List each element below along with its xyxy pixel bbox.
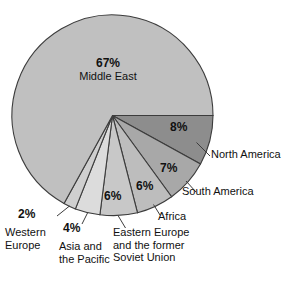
slice-percent-south-america-wrap: 7%	[160, 162, 177, 175]
slice-percent-north-america-wrap: 8%	[170, 121, 187, 134]
slice-name-eastern-europe-line1: Eastern Europe	[113, 226, 189, 238]
slice-name-western-europe-line2: Europe	[5, 239, 40, 251]
slice-percent-south-america: 7%	[160, 161, 177, 175]
slice-percent-asia-pacific-wrap: 4%	[63, 222, 80, 235]
slice-label-africa: Africa	[158, 210, 186, 223]
slice-label-north-america: North America	[211, 148, 281, 161]
slice-label-western-europe: Western Europe	[5, 226, 46, 251]
slice-percent-western-europe-wrap: 2%	[18, 208, 35, 221]
slice-percent-middle-east: 67%	[96, 56, 120, 70]
slice-name-eastern-europe-line3: Soviet Union	[113, 251, 175, 263]
slice-percent-eastern-europe: 6%	[104, 189, 121, 203]
pie-chart: 67% Middle East 8% North America 7% Sout…	[0, 0, 292, 281]
slice-percent-africa-wrap: 6%	[136, 180, 153, 193]
slice-name-western-europe-line1: Western	[5, 226, 46, 238]
slice-label-asia-pacific: Asia and the Pacific	[59, 240, 110, 265]
leader-line-western-europe	[57, 206, 70, 216]
slice-percent-africa: 6%	[136, 179, 153, 193]
slice-name-south-america: South America	[182, 185, 254, 197]
slice-name-eastern-europe-line2: and the former	[113, 239, 185, 251]
slice-label-middle-east: 67% Middle East	[62, 57, 154, 82]
slice-name-asia-pacific-line2: the Pacific	[59, 253, 110, 265]
slice-percent-north-america: 8%	[170, 120, 187, 134]
slice-name-africa: Africa	[158, 210, 186, 222]
slice-label-eastern-europe: Eastern Europe and the former Soviet Uni…	[113, 226, 189, 264]
slice-name-asia-pacific-line1: Asia and	[59, 240, 102, 252]
slice-name-north-america: North America	[211, 148, 281, 160]
slice-percent-western-europe: 2%	[18, 207, 35, 221]
leader-line-asia-pacific	[82, 212, 88, 224]
slice-percent-eastern-europe-wrap: 6%	[104, 190, 121, 203]
slice-name-middle-east: Middle East	[79, 70, 136, 82]
slice-label-south-america: South America	[182, 185, 254, 198]
slice-percent-asia-pacific: 4%	[63, 221, 80, 235]
